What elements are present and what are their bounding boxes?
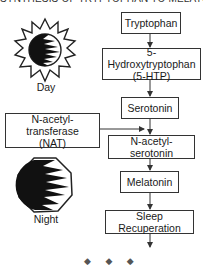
step-n-acetyl-serotonin: N-acetyl-serotonin (108, 135, 195, 159)
step-tryptophan: Tryptophan (121, 12, 181, 34)
step-sleep-recuperation: Sleep Recuperation (105, 210, 194, 234)
moon-icon (16, 158, 72, 212)
step-5-htp: 5-Hydroxytryptophan (5-HTP) (102, 48, 201, 80)
step-serotonin: Serotonin (121, 97, 179, 119)
sun-icon (15, 19, 75, 81)
night-label: Night (26, 213, 66, 225)
day-label: Day (30, 81, 62, 93)
enzyme-nat: N-acetyl-transferase (NAT) (5, 113, 100, 148)
step-melatonin: Melatonin (120, 171, 179, 193)
footer-ornament: ◆ ◆ ◆ (84, 256, 140, 266)
